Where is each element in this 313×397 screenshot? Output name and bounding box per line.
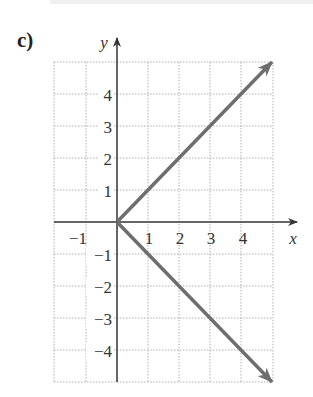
svg-text:2: 2	[176, 229, 185, 248]
svg-text:−4: −4	[94, 342, 113, 361]
svg-text:4: 4	[104, 86, 113, 105]
y-axis-label: y	[98, 33, 108, 52]
y-tick-labels: 4 3 2 1 −1 −2 −3 −4	[86, 86, 114, 361]
svg-text:−1: −1	[94, 246, 112, 265]
svg-text:1: 1	[145, 229, 154, 248]
svg-text:−1: −1	[69, 229, 87, 248]
svg-text:1: 1	[104, 182, 113, 201]
svg-text:4: 4	[239, 229, 248, 248]
ray-up	[117, 62, 272, 222]
svg-text:−3: −3	[94, 310, 112, 329]
svg-text:3: 3	[104, 118, 113, 137]
svg-text:2: 2	[104, 150, 113, 169]
graph: 4 3 2 1 −1 −2 −3 −4 −1 1 2 3 4 x y	[0, 0, 313, 397]
x-axis-label: x	[288, 229, 297, 248]
svg-text:−2: −2	[94, 278, 112, 297]
ray-down	[117, 222, 272, 382]
svg-text:3: 3	[207, 229, 216, 248]
